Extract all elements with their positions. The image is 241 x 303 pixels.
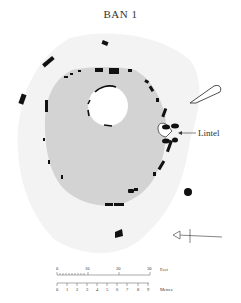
metres-tick-4: 4 xyxy=(96,287,99,292)
scale-bar xyxy=(57,272,150,286)
metres-tick-8: 8 xyxy=(137,287,140,292)
feet-tick-30: 30 xyxy=(147,266,152,271)
metres-tick-6: 6 xyxy=(116,287,119,292)
north-arrow-icon xyxy=(173,229,222,243)
metres-label: Metres xyxy=(160,287,173,292)
feet-tick-0: 0 xyxy=(56,266,59,271)
site-plan: Lintel 0 10 20 30 xyxy=(0,0,241,303)
feet-tick-10: 10 xyxy=(85,266,90,271)
lintel-label: Lintel xyxy=(198,128,220,138)
metres-tick-7: 7 xyxy=(126,287,129,292)
metres-tick-2: 2 xyxy=(76,287,78,292)
metres-tick-5: 5 xyxy=(106,287,109,292)
metres-tick-0: 0 xyxy=(56,287,59,292)
metres-tick-1: 1 xyxy=(66,287,68,292)
central-chamber xyxy=(88,86,128,126)
feet-tick-20: 20 xyxy=(116,266,121,271)
feet-label: Feet xyxy=(160,267,168,272)
metres-tick-9: 9 xyxy=(147,287,150,292)
metres-tick-3: 3 xyxy=(86,287,89,292)
